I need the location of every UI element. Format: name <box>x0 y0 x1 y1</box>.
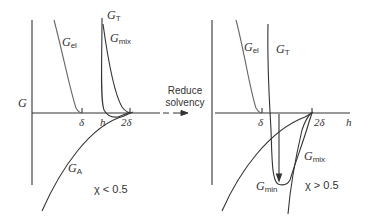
right-label-G-min: Gmin <box>256 180 278 194</box>
arrow-label: Reduce solvency <box>160 85 210 109</box>
right-tick-label-delta: δ <box>258 117 263 128</box>
left-label-G-el: Gel <box>62 36 77 50</box>
right-label-G-T: GT <box>276 43 290 57</box>
right-curve-G-A <box>222 112 313 211</box>
right-label-G-el: Gel <box>244 41 259 55</box>
reduce-solvency-arrow <box>163 111 188 116</box>
left-y-axis-label: G <box>18 97 27 109</box>
right-tick-label-2delta: 2δ <box>314 117 325 128</box>
left-condition: χ < 0.5 <box>94 184 128 195</box>
right-label-G-mix: Gmix <box>304 150 325 164</box>
left-label-G-A: GA <box>68 162 82 176</box>
left-label-G-mix: Gmix <box>110 32 131 46</box>
right-curve-G-el <box>236 20 262 113</box>
right-x-axis-label: h <box>346 117 352 128</box>
left-tick-label-2delta: 2δ <box>121 117 132 128</box>
left-curve-G-el <box>54 20 82 113</box>
left-tick-label-h: h <box>100 117 106 128</box>
left-tick-label-delta: δ <box>79 117 84 128</box>
left-curve-G-A <box>42 112 133 211</box>
right-condition: χ > 0.5 <box>305 180 339 191</box>
left-label-G-T: GT <box>107 9 121 23</box>
